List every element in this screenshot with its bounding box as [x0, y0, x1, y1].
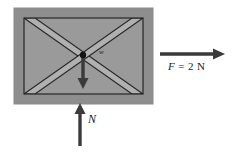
diagram-canvas — [0, 0, 234, 152]
applied-force-vector — [160, 49, 225, 60]
applied-force-value: = 2 N — [175, 60, 205, 72]
applied-force-label: F = 2 N — [168, 61, 205, 72]
weight-label: w — [99, 49, 104, 56]
center-of-mass-dot — [80, 52, 86, 58]
normal-force-vector — [75, 103, 86, 146]
free-body-diagram: w N F = 2 N — [0, 0, 234, 152]
normal-force-label: N — [88, 113, 96, 125]
